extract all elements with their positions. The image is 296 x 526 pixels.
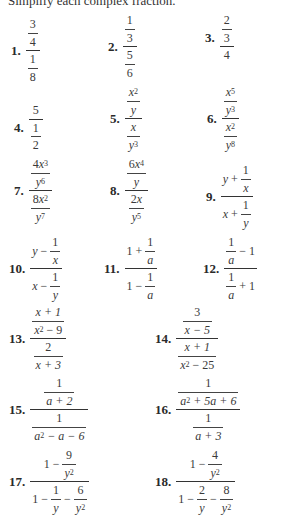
fraction: 1y bbox=[51, 484, 61, 514]
fraction-bar bbox=[226, 251, 236, 252]
fraction: 1y bbox=[241, 199, 251, 229]
fraction-bar bbox=[62, 464, 75, 465]
problem-number: 8. bbox=[110, 183, 120, 199]
complex-fraction: x2y xy3 bbox=[125, 86, 142, 151]
math-term: 9 bbox=[64, 449, 74, 462]
math-term: 2 bbox=[197, 484, 207, 497]
problem-3: 3. 23 4 bbox=[205, 14, 234, 62]
problem-number: 10. bbox=[9, 261, 25, 277]
math-term: 1 bbox=[145, 236, 155, 249]
complex-fraction: 1−9y2 1−1y−6y2 bbox=[30, 449, 89, 514]
fraction-bar bbox=[34, 356, 63, 357]
fraction-bar bbox=[222, 118, 239, 119]
numerator: 3x − 5 bbox=[181, 306, 214, 336]
denominator: x+1y bbox=[221, 199, 253, 229]
math-term: − 25 bbox=[193, 359, 215, 372]
complex-fraction: 6x4y 2xy5 bbox=[125, 158, 148, 223]
fraction-bar bbox=[127, 101, 140, 102]
complex-fraction: 1a + 2 1a2 − a − 6 bbox=[30, 377, 88, 442]
fraction-bar bbox=[224, 136, 237, 137]
math-term: y bbox=[241, 217, 250, 230]
problem-number: 15. bbox=[9, 402, 25, 418]
denominator: 8x2y7 bbox=[29, 193, 52, 223]
problem-14: 14. 3x − 5 x + 1x2 − 25 bbox=[155, 306, 218, 371]
problem-7: 7. 4x3y6 8x2y7 bbox=[14, 158, 52, 223]
math-term: 5 bbox=[31, 104, 41, 117]
numerator: x5y3 bbox=[222, 86, 239, 116]
problem-number: 11. bbox=[104, 261, 120, 277]
problem-11: 11. 1+1a 1−1a bbox=[104, 236, 157, 301]
problem-number: 17. bbox=[9, 474, 25, 490]
denominator: 1a2 − a − 6 bbox=[30, 412, 88, 442]
denominator: 1−2y−8y2 bbox=[176, 484, 235, 514]
fraction: 1x bbox=[50, 236, 60, 266]
math-term: a bbox=[145, 254, 155, 267]
fraction: 2y bbox=[197, 484, 207, 514]
numerator: x5 bbox=[224, 86, 237, 99]
fraction-bar bbox=[197, 499, 207, 500]
fraction: 6x4y bbox=[127, 158, 146, 188]
fraction: 1a2 − a − 6 bbox=[32, 412, 86, 442]
math-term: x + 1 bbox=[183, 341, 212, 354]
math-term: x bbox=[223, 208, 228, 221]
fraction: 1a + 2 bbox=[44, 377, 74, 407]
numerator: x2y bbox=[125, 86, 142, 116]
math-term: x bbox=[180, 359, 185, 372]
math-term: 1 bbox=[178, 493, 184, 506]
math-term: 1 bbox=[241, 199, 251, 212]
math-term: a bbox=[226, 254, 236, 267]
denominator: 1−1a bbox=[125, 271, 158, 301]
numerator: 1a + 2 bbox=[42, 377, 76, 407]
math-term: − bbox=[239, 245, 246, 258]
fraction: 4x3y6 bbox=[31, 158, 50, 188]
math-term: − bbox=[41, 280, 48, 293]
math-term: 1 bbox=[226, 271, 236, 284]
fraction: 1a bbox=[145, 271, 155, 301]
numerator: 1+1a bbox=[125, 236, 158, 266]
math-term: y bbox=[51, 502, 60, 515]
fraction-bar bbox=[32, 427, 86, 428]
problem-18: 18. 1−4y2 1−2y−8y2 bbox=[155, 449, 235, 514]
math-term: 1 bbox=[249, 245, 255, 258]
fraction: 9y2 bbox=[62, 449, 75, 479]
denominator: y2 bbox=[62, 467, 75, 480]
complex-fraction: x + 1x2 − 9 2x + 3 bbox=[30, 306, 66, 371]
numerator: 1a2 + 5a + 6 bbox=[176, 377, 240, 407]
fraction-bar bbox=[30, 409, 88, 410]
complex-fraction: 1a−1 1a+1 bbox=[224, 236, 257, 301]
denominator: y6 bbox=[34, 176, 47, 189]
denominator: y3 bbox=[224, 104, 237, 117]
fraction-bar bbox=[125, 118, 142, 119]
fraction: 2xy5 bbox=[129, 193, 144, 223]
math-term: − bbox=[210, 493, 217, 506]
complex-fraction: 4x3y6 8x2y7 bbox=[29, 158, 52, 223]
math-term: x bbox=[241, 182, 250, 195]
numerator: x2 bbox=[127, 86, 140, 99]
math-term: 5 bbox=[125, 49, 135, 62]
math-term: − 9 bbox=[47, 324, 63, 337]
fraction-bar bbox=[127, 136, 140, 137]
math-term: 1 bbox=[241, 164, 251, 177]
denominator: y2 bbox=[220, 502, 233, 515]
math-term: 8 bbox=[221, 484, 231, 497]
fraction-bar bbox=[224, 268, 257, 269]
fraction: 1a bbox=[226, 236, 236, 266]
fraction: 1a2 + 5a + 6 bbox=[178, 377, 238, 407]
problem-9: 9. y+1x x+1y bbox=[206, 164, 253, 229]
numerator: 2x bbox=[129, 193, 144, 206]
problem-number: 14. bbox=[155, 331, 171, 347]
math-term: − bbox=[53, 458, 60, 471]
complex-fraction: 34 18 bbox=[26, 18, 40, 83]
numerator: 1a−1 bbox=[224, 236, 257, 266]
math-term: 1 bbox=[226, 236, 236, 249]
math-term: 4 bbox=[222, 49, 232, 62]
math-term: x bbox=[34, 324, 39, 337]
fraction-bar bbox=[30, 268, 62, 269]
fraction-bar bbox=[183, 321, 212, 322]
fraction: 1y bbox=[50, 271, 60, 301]
fraction-bar bbox=[241, 179, 251, 180]
math-term: + bbox=[239, 280, 246, 293]
math-term: 1 bbox=[54, 377, 64, 390]
math-term: 1 bbox=[249, 280, 255, 293]
fraction: 23 bbox=[222, 14, 232, 44]
